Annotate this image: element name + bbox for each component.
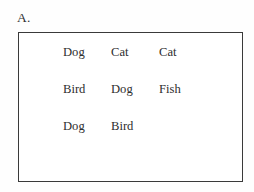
- word-cell: Dog: [63, 119, 111, 134]
- word-cell: Dog: [111, 82, 159, 97]
- word-grid-row: Dog Cat Cat: [63, 45, 235, 82]
- word-cell: Cat: [111, 45, 159, 60]
- word-cell: Fish: [159, 82, 207, 97]
- word-cell: Dog: [63, 45, 111, 60]
- word-cell: Cat: [159, 45, 207, 60]
- word-grid: Dog Cat Cat Bird Dog Fish Dog Bird: [63, 45, 235, 156]
- word-cell: Bird: [63, 82, 111, 97]
- word-cell: Bird: [111, 119, 159, 134]
- figure-panel-a: A. Dog Cat Cat Bird Dog Fish Dog Bird: [0, 0, 254, 192]
- panel-label: A.: [17, 10, 31, 26]
- word-grid-row: Bird Dog Fish: [63, 82, 235, 119]
- word-box-border: Dog Cat Cat Bird Dog Fish Dog Bird: [18, 32, 243, 182]
- word-grid-row: Dog Bird: [63, 119, 235, 156]
